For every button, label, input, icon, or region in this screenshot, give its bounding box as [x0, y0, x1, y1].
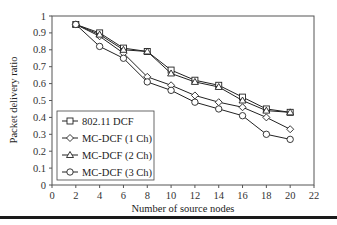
y-tick-label: 0.9: [33, 27, 46, 38]
diamond-marker-icon: [215, 99, 222, 106]
series-square: [73, 21, 293, 115]
circle-marker-icon: [168, 87, 174, 93]
legend: 802.11 DCFMC-DCF (1 Ch)MC-DCF (2 Ch)MC-D…: [57, 111, 154, 180]
circle-marker-icon: [239, 113, 245, 119]
y-axis: 00.10.20.30.40.50.60.70.80.91: [33, 11, 52, 191]
diamond-marker-icon: [239, 104, 246, 111]
x-tick-label: 4: [97, 190, 103, 201]
y-tick-label: 0.3: [33, 129, 46, 140]
x-tick-label: 8: [145, 190, 150, 201]
diamond-marker-icon: [287, 126, 294, 133]
circle-marker-icon: [73, 21, 79, 27]
x-axis-title: Number of source nodes: [132, 203, 235, 214]
circle-marker-icon: [216, 106, 222, 112]
circle-marker-icon: [287, 136, 293, 142]
y-tick-label: 0.6: [33, 78, 46, 89]
x-tick-label: 2: [73, 190, 78, 201]
y-tick-label: 0.8: [33, 44, 46, 55]
y-tick-label: 0.1: [33, 163, 46, 174]
line-chart: 00.10.20.30.40.50.60.70.80.91 0246810121…: [0, 0, 337, 225]
page-divider: [0, 216, 337, 219]
x-tick-label: 10: [166, 190, 177, 201]
circle-marker-icon: [144, 79, 150, 85]
x-tick-label: 6: [121, 190, 126, 201]
x-axis: 0246810121416182022: [49, 185, 319, 201]
x-tick-label: 22: [309, 190, 320, 201]
circle-marker-icon: [192, 99, 198, 105]
y-tick-label: 0.5: [33, 95, 46, 106]
diamond-marker-icon: [263, 114, 270, 121]
circle-legend-icon: [67, 169, 73, 175]
legend-label: MC-DCF (2 Ch): [82, 150, 153, 162]
y-axis-title: Packet delivery ratio: [8, 57, 19, 144]
circle-marker-icon: [263, 131, 269, 137]
x-tick-label: 14: [213, 190, 224, 201]
square-legend-icon: [67, 118, 73, 124]
x-tick-label: 18: [261, 190, 272, 201]
x-tick-label: 12: [190, 190, 201, 201]
legend-label: 802.11 DCF: [82, 116, 134, 127]
y-tick-label: 0.4: [33, 112, 47, 123]
diamond-marker-icon: [191, 92, 198, 99]
y-tick-label: 1: [41, 11, 46, 22]
circle-marker-icon: [96, 43, 102, 49]
legend-label: MC-DCF (3 Ch): [82, 167, 153, 179]
y-tick-label: 0: [41, 180, 46, 191]
x-tick-label: 0: [49, 190, 54, 201]
y-tick-label: 0.2: [33, 146, 46, 157]
circle-marker-icon: [120, 55, 126, 61]
legend-label: MC-DCF (1 Ch): [82, 133, 153, 145]
series-triangle: [72, 21, 293, 115]
x-tick-label: 16: [237, 190, 248, 201]
y-tick-label: 0.7: [33, 61, 46, 72]
x-tick-label: 20: [285, 190, 296, 201]
